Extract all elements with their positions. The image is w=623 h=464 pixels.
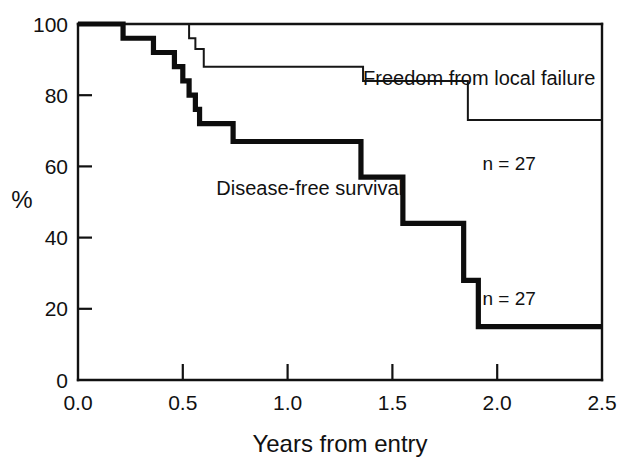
x-tick-label-0-0: 0.0 bbox=[63, 391, 92, 414]
y-tick-label-40: 40 bbox=[45, 226, 68, 249]
x-tick-label-1-5: 1.5 bbox=[378, 391, 407, 414]
x-axis-ticks bbox=[183, 364, 497, 380]
y-axis-title: % bbox=[11, 186, 32, 213]
y-tick-label-60: 60 bbox=[45, 155, 68, 178]
y-axis-tick-labels: 100 80 60 40 20 0 bbox=[33, 13, 68, 392]
y-tick-label-0: 0 bbox=[56, 369, 68, 392]
n-label-disease-free-survival: n = 27 bbox=[483, 288, 536, 309]
y-tick-label-100: 100 bbox=[33, 13, 68, 36]
survival-chart-canvas: 100 80 60 40 20 0 % 0.0 0.5 1.0 1.5 2.0 … bbox=[0, 0, 623, 464]
y-tick-label-20: 20 bbox=[45, 297, 68, 320]
x-tick-label-2-0: 2.0 bbox=[483, 391, 512, 414]
y-axis-ticks bbox=[78, 24, 92, 309]
series-label-freedom-from-local-failure: Freedom from local failure bbox=[363, 67, 595, 89]
series-label-disease-free-survival: Disease-free survival bbox=[216, 177, 403, 199]
x-axis-title: Years from entry bbox=[252, 430, 427, 457]
y-tick-label-80: 80 bbox=[45, 84, 68, 107]
x-tick-label-1-0: 1.0 bbox=[273, 391, 302, 414]
x-axis-tick-labels: 0.0 0.5 1.0 1.5 2.0 2.5 bbox=[63, 391, 616, 414]
x-tick-label-2-5: 2.5 bbox=[587, 391, 616, 414]
n-label-freedom-from-local-failure: n = 27 bbox=[483, 153, 536, 174]
x-tick-label-0-5: 0.5 bbox=[168, 391, 197, 414]
kaplan-meier-figure: 100 80 60 40 20 0 % 0.0 0.5 1.0 1.5 2.0 … bbox=[0, 0, 623, 464]
